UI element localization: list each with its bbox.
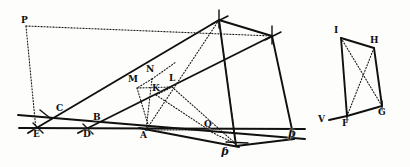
side-top-to-upper-right (219, 20, 272, 36)
point-label-A: A (140, 131, 147, 140)
point-label-F: F (342, 119, 348, 128)
point-label-G: G (378, 108, 386, 117)
right-figure-solid-lines (329, 38, 382, 120)
figure-canvas (0, 0, 410, 167)
point-label-L: L (169, 74, 175, 83)
point-label-K: K (152, 84, 160, 93)
main-figure-tick-marks (33, 10, 281, 143)
point-label-P: P (21, 16, 28, 25)
point-label-N: N (146, 65, 154, 74)
quad-side-F-to-G (347, 106, 382, 116)
geometry-figure: P C E D B A M N K L Q ƥ ƥ I H V F G (0, 0, 410, 167)
dotted-N-to-K (137, 79, 152, 88)
point-label-R: ƥ (288, 128, 296, 139)
point-label-B: B (93, 113, 101, 122)
right-figure-dotted-lines (341, 38, 382, 116)
point-label-H: H (370, 36, 379, 45)
point-label-Q: Q (204, 120, 212, 129)
point-label-I: I (334, 26, 338, 35)
dotted-bottom-vertex-to-upper-right (219, 20, 236, 144)
dotted-P-to-upper-right-vertex (26, 26, 272, 36)
point-label-S: ƥ (221, 146, 229, 157)
point-label-V: V (318, 115, 325, 124)
point-label-C: C (56, 104, 63, 113)
point-label-D: D (83, 130, 91, 139)
side-upper-right-to-right-vertex (272, 36, 294, 139)
tick-mark-at-bottom-vertex (226, 142, 248, 143)
main-figure-solid-lines (18, 20, 305, 147)
line-D-to-upper-right-vertex (78, 36, 272, 133)
quad-side-H-to-G (374, 48, 382, 106)
quad-diagonal-I-to-G (341, 38, 382, 106)
quad-diagonal-H-to-F (347, 48, 374, 116)
point-label-M: M (128, 75, 138, 84)
baseline-segment (19, 128, 305, 129)
main-figure-dotted-lines (26, 20, 272, 144)
transversal-C-B-to-R (18, 115, 305, 139)
dotted-P-to-E (26, 26, 36, 130)
point-label-E: E (33, 130, 40, 139)
quad-side-I-to-F (341, 38, 347, 116)
